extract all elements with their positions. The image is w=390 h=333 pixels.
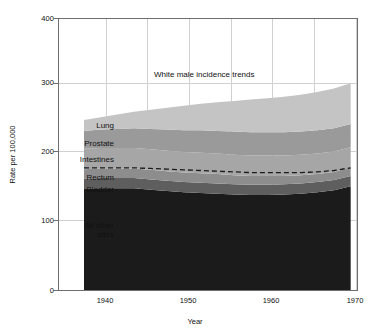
series-label-rectum: Rectum [48, 174, 114, 182]
plot-annotation: White male incidence trends [154, 70, 255, 79]
y-tick-label-400: 400 [2, 15, 54, 23]
y-tick-label-100: 100 [2, 217, 54, 225]
y-axis-title: Rate per 100,000 [8, 115, 17, 195]
series-label-all-other-sites-line2: sites [48, 231, 114, 239]
series-label-intestines: Intestines [48, 156, 114, 164]
incidence-area-chart: 400 300 200 100 0 Rate per 100,000 White… [0, 0, 390, 333]
y-tick-label-0: 0 [2, 287, 54, 295]
series-label-bladder: Bladder [48, 186, 114, 194]
x-tick-label-1940: 1940 [85, 297, 125, 305]
x-tick-label-1950: 1950 [168, 297, 208, 305]
area-band-all-other-sites [84, 186, 351, 291]
x-tick-label-1960: 1960 [251, 297, 291, 305]
series-label-prostate: Prostate [48, 140, 114, 148]
series-label-lung: Lung [48, 122, 114, 130]
area-band-lung [84, 83, 351, 132]
x-tick-label-1970: 1970 [335, 297, 375, 305]
y-tick-label-300: 300 [2, 79, 54, 87]
x-axis-title: Year [0, 317, 390, 326]
